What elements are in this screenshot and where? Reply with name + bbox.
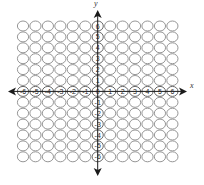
y-tick-label: 3 [96,55,100,62]
x-tick-label: -4 [45,88,51,95]
y-axis-label: y [94,0,98,8]
coordinate-grid: -6-5-4-3-2-1123456654321-1-2-3-4-5-60 [0,0,204,185]
grid-circle [67,97,78,107]
grid-circle [167,54,178,64]
grid-circle [55,141,66,151]
grid-circle [42,65,53,75]
grid-circle [17,43,28,53]
grid-circle [105,65,116,75]
grid-circle [30,21,41,31]
grid-circle [67,32,78,42]
grid-circle [167,21,178,31]
y-tick-label: -6 [95,153,101,160]
grid-circle [42,76,53,86]
grid-circle [30,152,41,162]
grid-circle [167,119,178,129]
grid-circle [80,76,91,86]
grid-circle [80,97,91,107]
grid-circle [154,76,165,86]
grid-circle [55,21,66,31]
grid-circle [167,130,178,140]
grid-circle [154,119,165,129]
origin-label: 0 [96,88,100,95]
x-tick-label: 5 [158,88,162,95]
grid-circle [117,54,128,64]
grid-circle [117,97,128,107]
grid-circle [42,21,53,31]
x-tick-label: -5 [32,88,38,95]
grid-circle [142,108,153,118]
grid-circle [117,43,128,53]
grid-circle [42,108,53,118]
grid-circle [105,108,116,118]
grid-circle [55,108,66,118]
grid-circle [117,21,128,31]
grid-circle [142,43,153,53]
grid-circle [142,97,153,107]
grid-circle [105,97,116,107]
grid-circle [67,141,78,151]
grid-circle [142,119,153,129]
grid-circle [117,119,128,129]
grid-circle [142,21,153,31]
grid-circle [117,141,128,151]
grid-circle [117,152,128,162]
grid-circle [154,141,165,151]
y-tick-label: 6 [96,23,100,30]
grid-circle [80,108,91,118]
grid-circle [67,130,78,140]
grid-circle [167,141,178,151]
grid-circle [154,43,165,53]
grid-circle [142,65,153,75]
x-tick-label: 6 [170,88,174,95]
y-tick-label: -3 [95,121,101,128]
grid-circle [17,65,28,75]
grid-circle [42,152,53,162]
grid-circle [30,76,41,86]
grid-circle [30,97,41,107]
grid-circle [154,130,165,140]
grid-circle [55,119,66,129]
grid-circle [30,119,41,129]
grid-circle [80,54,91,64]
grid-circle [17,108,28,118]
grid-circle [154,32,165,42]
grid-circle [142,32,153,42]
grid-circle [167,152,178,162]
grid-circle [17,152,28,162]
grid-circle [80,65,91,75]
x-tick-label: 2 [121,88,125,95]
y-tick-label: 5 [96,33,100,40]
x-tick-label: -1 [82,88,88,95]
grid-circle [80,152,91,162]
grid-circle [105,76,116,86]
grid-circle [129,141,140,151]
grid-circle [80,141,91,151]
grid-circle [105,21,116,31]
grid-circle [17,76,28,86]
grid-circle [154,54,165,64]
grid-circle [129,76,140,86]
grid-circle [17,97,28,107]
grid-circle [67,108,78,118]
x-tick-label: 4 [146,88,150,95]
grid-circle [42,32,53,42]
grid-circle [55,65,66,75]
grid-circle [30,130,41,140]
grid-circle [30,32,41,42]
grid-circle [55,97,66,107]
grid-circle [17,130,28,140]
grid-circle [17,32,28,42]
grid-circle [105,152,116,162]
x-tick-label: 1 [108,88,112,95]
grid-circle [129,97,140,107]
grid-circle [154,108,165,118]
grid-circle [80,119,91,129]
grid-circle [17,119,28,129]
grid-circle [42,119,53,129]
grid-circle [117,108,128,118]
grid-circle [142,130,153,140]
grid-circle [129,65,140,75]
x-tick-label: -6 [20,88,26,95]
grid-circle [30,54,41,64]
